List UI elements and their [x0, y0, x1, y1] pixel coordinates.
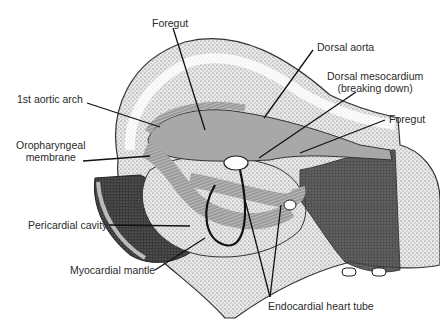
label-myocardial-mantle: Myocardial mantle — [70, 264, 155, 276]
label-oropharyngeal-line2: membrane — [16, 151, 85, 163]
label-oropharyngeal-line1: Oropharyngeal — [16, 139, 85, 151]
label-dorsal-mesocardium: Dorsal mesocardium (breaking down) — [327, 70, 423, 94]
label-dorsal-mesocardium-line2: (breaking down) — [327, 82, 423, 94]
label-foregut-top: Foregut — [152, 17, 188, 29]
label-endocardial-heart-tube: Endocardial heart tube — [268, 300, 374, 312]
label-oropharyngeal-membrane: Oropharyngeal membrane — [16, 139, 85, 163]
label-pericardial-cavity: Pericardial cavity — [28, 219, 107, 231]
label-foregut-right: Foregut — [389, 113, 425, 125]
label-aortic-arch: 1st aortic arch — [17, 93, 83, 105]
label-dorsal-aorta: Dorsal aorta — [317, 41, 374, 53]
label-dorsal-mesocardium-line1: Dorsal mesocardium — [327, 70, 423, 82]
